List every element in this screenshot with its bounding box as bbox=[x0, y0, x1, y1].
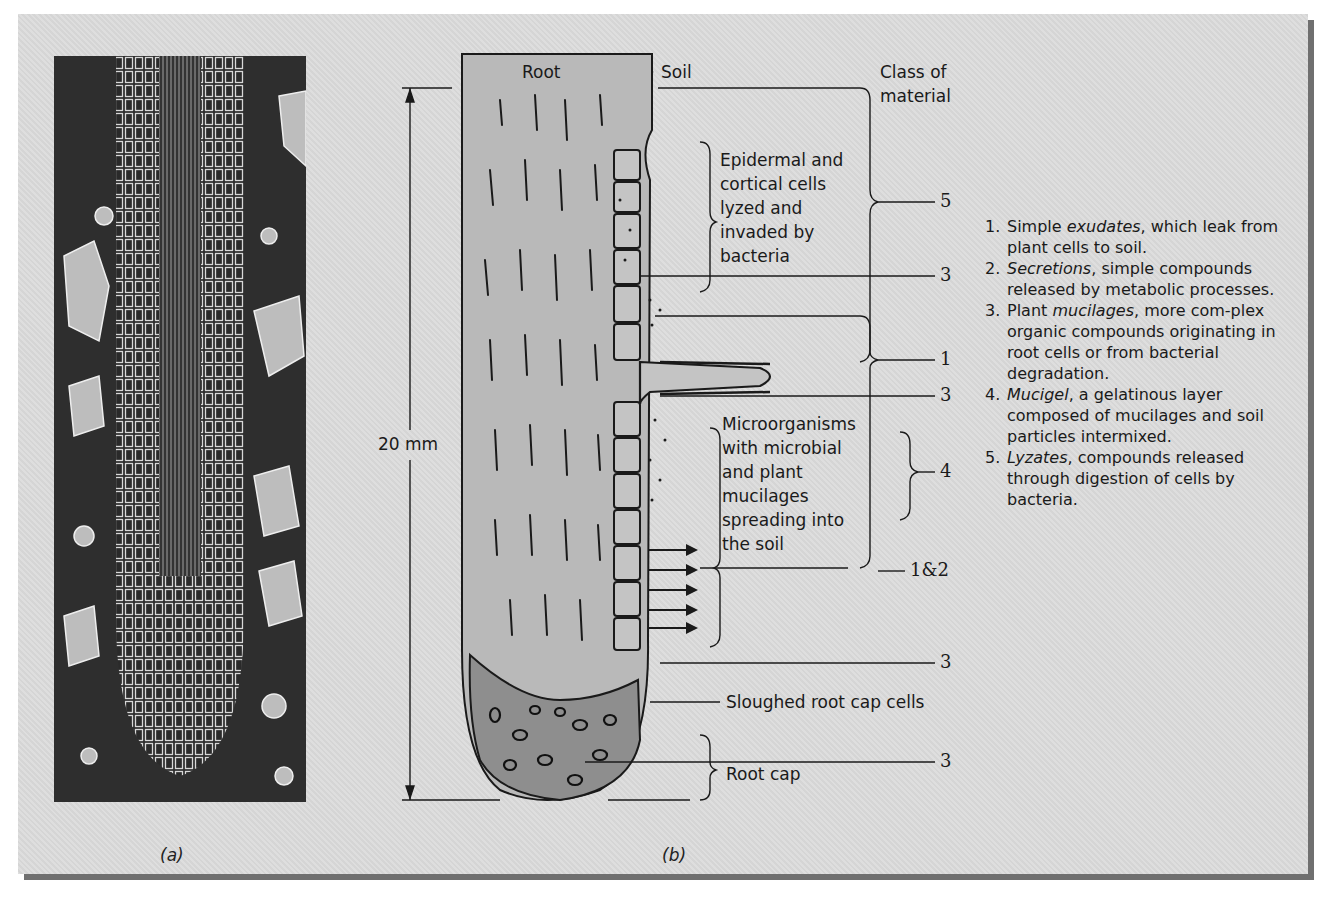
microorganisms-label-1: Microorganisms bbox=[722, 414, 856, 435]
epidermal-label-4: invaded by bbox=[720, 222, 814, 243]
class-legend: 1.Simple exudates, which leak from plant… bbox=[985, 216, 1285, 510]
soil-label: Soil bbox=[661, 62, 692, 83]
class-number: 3 bbox=[940, 651, 951, 672]
class-of-material-label-1: Class of bbox=[880, 62, 947, 83]
class-number: 1&2 bbox=[910, 559, 949, 580]
class-of-material-label-2: material bbox=[880, 86, 951, 107]
microorganisms-label-4: mucilages bbox=[722, 486, 809, 507]
microorganisms-label-6: the soil bbox=[722, 534, 784, 555]
microorganisms-label-5: spreading into bbox=[722, 510, 844, 531]
epidermal-label-3: lyzed and bbox=[720, 198, 802, 219]
legend-item-4: 4.Mucigel, a gelatinous layer composed o… bbox=[985, 384, 1285, 447]
class-number: 3 bbox=[940, 750, 951, 771]
sloughed-root-cap-label: Sloughed root cap cells bbox=[726, 692, 924, 713]
class-number: 3 bbox=[940, 384, 951, 405]
epidermal-label-2: cortical cells bbox=[720, 174, 826, 195]
class-number: 1 bbox=[940, 348, 951, 369]
legend-item-1: 1.Simple exudates, which leak from plant… bbox=[985, 216, 1285, 258]
root-label: Root bbox=[522, 62, 561, 83]
microorganisms-label-2: with microbial bbox=[722, 438, 842, 459]
legend-item-3: 3.Plant mucilages, more com-plex organic… bbox=[985, 300, 1285, 384]
epidermal-label-1: Epidermal and bbox=[720, 150, 843, 171]
scale-label: 20 mm bbox=[378, 434, 438, 455]
legend-item-5: 5.Lyzates, compounds released through di… bbox=[985, 447, 1285, 510]
root-cap-label: Root cap bbox=[726, 764, 800, 785]
microorganisms-label-3: and plant bbox=[722, 462, 803, 483]
epidermal-label-5: bacteria bbox=[720, 246, 790, 267]
class-number: 4 bbox=[940, 460, 951, 481]
class-number: 5 bbox=[940, 190, 951, 211]
class-number: 3 bbox=[940, 264, 951, 285]
legend-item-2: 2.Secretions, simple compounds released … bbox=[985, 258, 1285, 300]
